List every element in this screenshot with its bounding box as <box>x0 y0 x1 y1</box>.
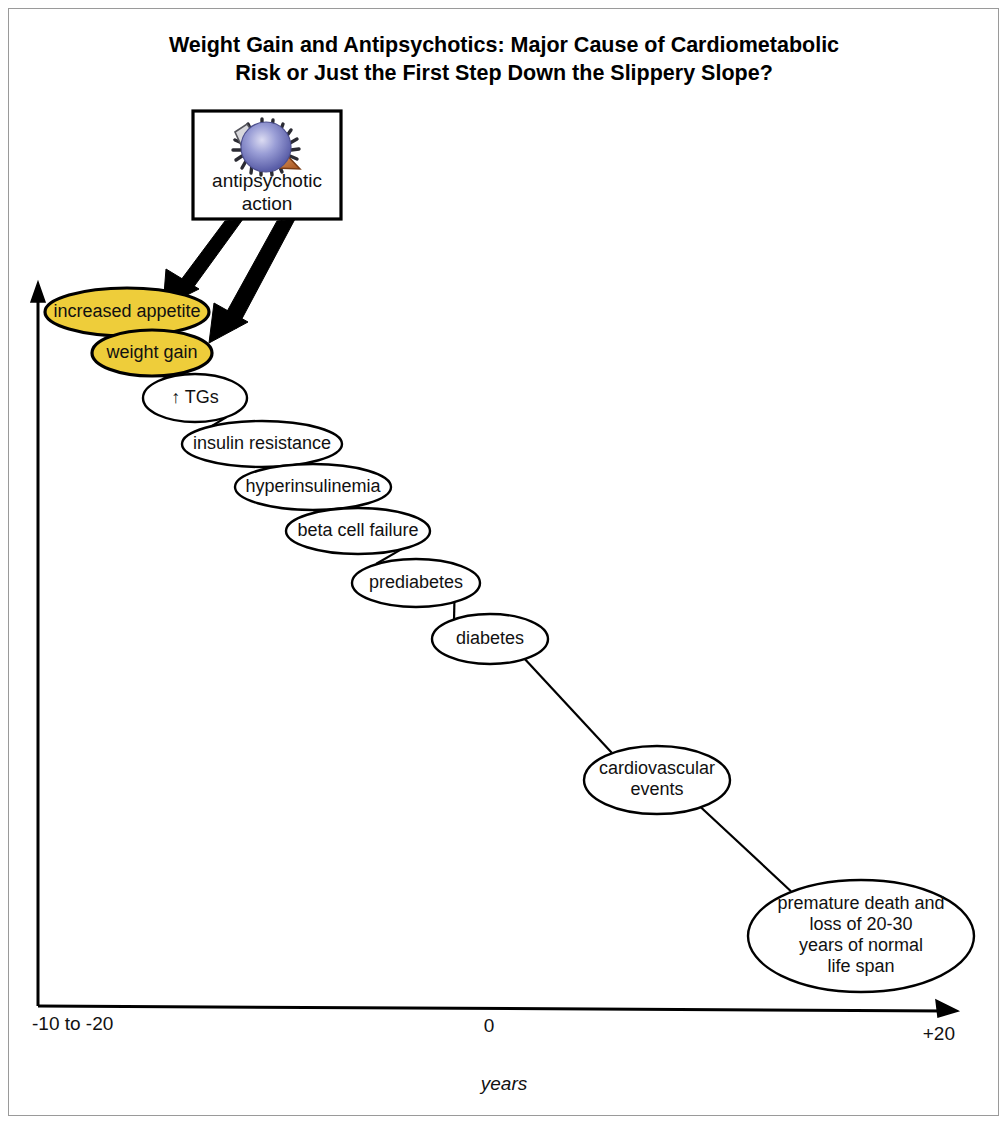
node-beta-cell-failure[interactable]: beta cell failure <box>286 508 430 554</box>
node-hyperinsulinemia[interactable]: hyperinsulinemia <box>235 464 391 510</box>
x-axis-tick-left: -10 to -20 <box>32 1013 113 1034</box>
x-axis-tick-right: +20 <box>923 1023 955 1044</box>
node-weight-gain[interactable]: weight gain <box>92 330 212 376</box>
x-axis-line <box>38 1006 947 1011</box>
x-axis-tick-middle: 0 <box>484 1015 495 1036</box>
node-label-premature-death-line-3: years of normal <box>799 935 923 955</box>
node-diabetes[interactable]: diabetes <box>432 614 548 664</box>
node-tgs[interactable]: ↑ TGs <box>143 374 247 422</box>
node-label-premature-death-line-1: premature death and <box>777 893 944 913</box>
y-axis-arrowhead-icon <box>31 282 45 302</box>
nodes-layer: increased appetiteweight gain↑ TGsinsuli… <box>45 288 974 992</box>
x-axis-arrowhead-icon <box>936 1000 958 1017</box>
node-label-hyperinsulinemia: hyperinsulinemia <box>245 476 381 496</box>
node-prediabetes[interactable]: prediabetes <box>352 559 480 607</box>
figure-root: Weight Gain and Antipsychotics: Major Ca… <box>0 0 1008 1126</box>
node-premature-death[interactable]: premature death andloss of 20-30years of… <box>748 880 974 992</box>
connector-cardiovascular-events-to-premature-death <box>701 807 791 891</box>
node-label-premature-death-line-2: loss of 20-30 <box>809 914 912 934</box>
slippery-slope-diagram: Weight Gain and Antipsychotics: Major Ca… <box>0 0 1008 1126</box>
molecule-sphere <box>241 122 291 172</box>
chart-title-line-1: Weight Gain and Antipsychotics: Major Ca… <box>169 33 839 57</box>
node-label-cardiovascular-events-line-2: events <box>630 779 683 799</box>
node-insulin-resistance[interactable]: insulin resistance <box>182 421 342 467</box>
node-label-insulin-resistance: insulin resistance <box>193 433 331 453</box>
node-cardiovascular-events[interactable]: cardiovascularevents <box>584 746 730 814</box>
node-label-beta-cell-failure: beta cell failure <box>297 520 418 540</box>
node-label-weight-gain: weight gain <box>105 342 197 362</box>
node-label-diabetes: diabetes <box>456 628 524 648</box>
node-label-tgs: ↑ TGs <box>171 387 219 407</box>
antipsychotic-action-label-line-1: antipsychotic <box>212 170 322 191</box>
antipsychotic-action-box[interactable]: antipsychotic action <box>193 111 341 219</box>
node-label-cardiovascular-events-line-1: cardiovascular <box>599 758 715 778</box>
node-label-premature-death-line-4: life span <box>827 956 894 976</box>
antipsychotic-action-label-line-2: action <box>242 193 293 214</box>
chart-title-line-2: Risk or Just the First Step Down the Sli… <box>235 61 773 85</box>
x-axis-title: years <box>479 1073 528 1094</box>
node-label-prediabetes: prediabetes <box>369 572 463 592</box>
connector-diabetes-to-cardiovascular-events <box>525 659 612 753</box>
node-increased-appetite[interactable]: increased appetite <box>45 288 209 336</box>
node-label-increased-appetite: increased appetite <box>53 301 200 321</box>
